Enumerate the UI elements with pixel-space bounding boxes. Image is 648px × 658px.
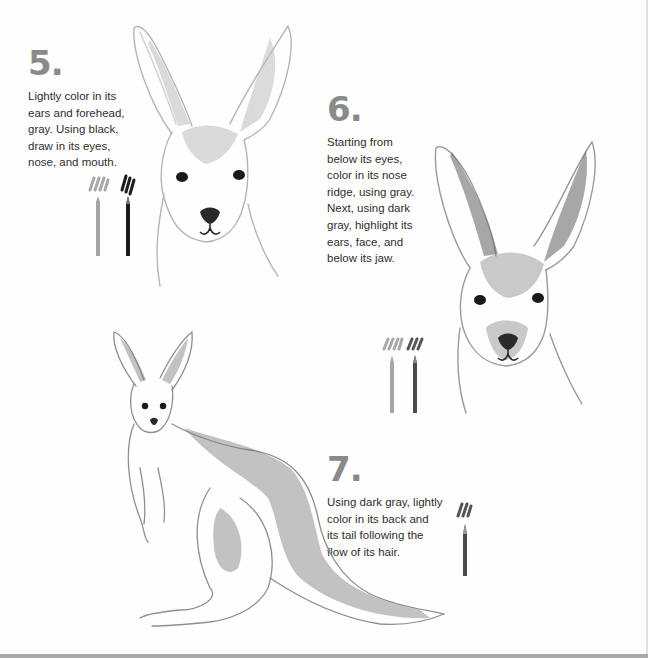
right-eye-icon: [233, 170, 245, 180]
gray-pencil-icon: [90, 178, 108, 256]
step-6-number: 6.: [327, 92, 427, 126]
dark-gray-pencil-icon: [458, 504, 471, 576]
nose-icon: [200, 208, 220, 225]
step-7-pencil-swatches: [455, 500, 475, 580]
kangaroo-head-sketch-step5: [120, 14, 300, 294]
kangaroo-full-body-sketch-step7: [100, 328, 450, 638]
book-page: 5. Lightly color in its ears and forehea…: [0, 0, 648, 658]
step-6-instructions: Starting from below its eyes, color in i…: [327, 134, 427, 267]
left-eye-icon: [176, 172, 188, 182]
page-bottom-strip: [0, 654, 648, 658]
step-6: 6. Starting from below its eyes, color i…: [327, 92, 427, 267]
